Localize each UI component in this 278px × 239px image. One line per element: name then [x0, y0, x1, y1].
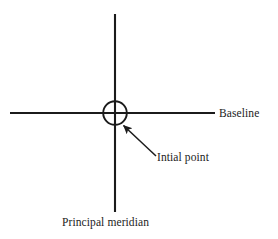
initial-point-leader-arrow [124, 126, 157, 157]
baseline-label: Baseline [219, 107, 259, 120]
survey-diagram-figure: Baseline Intial point Principal meridian [0, 0, 278, 239]
initial-point-label: Intial point [157, 151, 209, 164]
principal-meridian-label: Principal meridian [62, 216, 149, 229]
